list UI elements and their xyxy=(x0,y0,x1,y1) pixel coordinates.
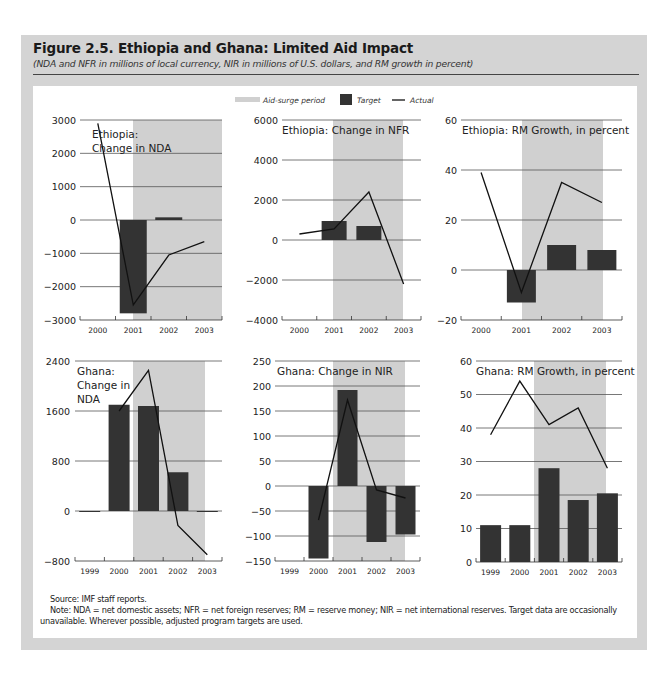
y-tick-label: −150 xyxy=(245,556,271,567)
target-bar xyxy=(356,226,381,240)
y-tick-label: 10 xyxy=(460,523,472,534)
x-tick-label: 1999 xyxy=(280,567,299,576)
chart-ghana-rm-growth: 605040302010019992000200120022003Ghana: … xyxy=(460,356,635,578)
target-bar xyxy=(197,511,218,512)
abbreviations-note: Note: NDA = net domestic assets; NFR = n… xyxy=(40,605,630,627)
y-tick-label: −50 xyxy=(251,506,271,517)
y-tick-label: 0 xyxy=(451,265,457,276)
y-tick-label: 50 xyxy=(259,456,271,467)
y-tick-label: 150 xyxy=(253,406,271,417)
x-tick-label: 2003 xyxy=(394,326,413,335)
y-tick-label: −1000 xyxy=(44,248,76,259)
x-tick-label: 2003 xyxy=(396,567,415,576)
target-bar xyxy=(568,500,589,562)
x-tick-label: 2001 xyxy=(325,326,344,335)
y-tick-label: 0 xyxy=(466,557,472,568)
y-tick-label: 0 xyxy=(70,215,76,226)
y-tick-label: 4000 xyxy=(254,155,278,166)
target-bar xyxy=(120,220,147,313)
chart-ethiopia-nfr: 6000400020000−2000−40002000200120022003E… xyxy=(246,115,421,336)
target-bar xyxy=(547,245,576,270)
target-bar xyxy=(138,406,159,511)
x-tick-label: 2003 xyxy=(592,326,611,335)
x-tick-label: 1999 xyxy=(80,567,99,576)
x-tick-label: 2003 xyxy=(195,326,214,335)
chart-ghana-nda: 240016008000−80019992000200120022003Ghan… xyxy=(44,356,222,577)
y-tick-label: 20 xyxy=(460,490,472,501)
y-tick-label: 0 xyxy=(265,481,271,492)
y-tick-label: 100 xyxy=(253,431,271,442)
aid-surge-band xyxy=(333,120,403,320)
chart-title: Ghana: Change in NIR xyxy=(277,365,393,377)
x-tick-label: 2001 xyxy=(512,326,531,335)
figure-notes: Source: IMF staff reports. Note: NDA = n… xyxy=(40,594,630,627)
chart-title: Change in xyxy=(77,379,130,391)
x-tick-label: 2001 xyxy=(124,326,143,335)
target-bar xyxy=(507,270,536,303)
x-tick-label: 2002 xyxy=(359,326,378,335)
x-tick-label: 2000 xyxy=(290,326,309,335)
target-bar xyxy=(597,493,618,562)
x-tick-label: 2002 xyxy=(168,567,187,576)
x-tick-label: 2001 xyxy=(539,568,558,577)
target-bar xyxy=(155,217,182,220)
x-tick-label: 2000 xyxy=(510,568,529,577)
y-tick-label: −3000 xyxy=(44,315,76,326)
legend-target-label: Target xyxy=(357,96,382,105)
y-tick-label: 30 xyxy=(460,456,472,467)
x-tick-label: 2003 xyxy=(198,567,217,576)
y-tick-label: −2000 xyxy=(246,275,278,286)
y-tick-label: 2400 xyxy=(46,356,70,367)
x-tick-label: 2000 xyxy=(88,326,107,335)
y-tick-label: 20 xyxy=(445,215,457,226)
x-tick-label: 2002 xyxy=(552,326,571,335)
y-tick-label: 0 xyxy=(272,235,278,246)
chart-ethiopia-nda: 3000200010000−1000−2000−3000200020012002… xyxy=(44,115,222,336)
legend-actual-label: Actual xyxy=(409,96,435,105)
y-tick-label: 1600 xyxy=(46,406,70,417)
target-bar xyxy=(587,250,616,270)
y-tick-label: 800 xyxy=(52,456,70,467)
x-tick-label: 2003 xyxy=(598,568,617,577)
y-tick-label: 40 xyxy=(460,423,472,434)
chart-title: Ghana: xyxy=(77,365,115,377)
y-tick-label: 50 xyxy=(460,389,472,400)
target-bar xyxy=(309,486,329,559)
x-tick-label: 2000 xyxy=(472,326,491,335)
y-tick-label: −2000 xyxy=(44,281,76,292)
y-tick-label: 60 xyxy=(445,115,457,126)
y-tick-label: 2000 xyxy=(254,195,278,206)
chart-title: Change in NDA xyxy=(92,142,172,154)
y-tick-label: 250 xyxy=(253,356,271,367)
chart-title: Ethiopia: RM Growth, in percent xyxy=(462,124,629,136)
target-bar xyxy=(109,405,130,511)
target-bar xyxy=(480,525,501,562)
x-tick-label: 2001 xyxy=(338,567,357,576)
legend-aid-surge-swatch xyxy=(235,97,260,102)
target-bar xyxy=(509,525,530,562)
x-tick-label: 2000 xyxy=(110,567,129,576)
chart-title: Ghana: RM Growth, in percent xyxy=(476,365,635,377)
chart-ethiopia-rm-growth: 6040200−202000200120022003Ethiopia: RM G… xyxy=(437,115,629,336)
x-tick-label: 2002 xyxy=(159,326,178,335)
y-tick-label: −4000 xyxy=(246,315,278,326)
source-note: Source: IMF staff reports. xyxy=(40,594,630,605)
x-tick-label: 2001 xyxy=(139,567,158,576)
chart-title: Ethiopia: Change in NFR xyxy=(282,124,409,136)
x-tick-label: 2002 xyxy=(367,567,386,576)
y-tick-label: 2000 xyxy=(52,148,76,159)
target-bar xyxy=(167,472,188,511)
legend: Aid-surge period Target Actual xyxy=(235,94,435,105)
y-tick-label: 40 xyxy=(445,165,457,176)
legend-aid-surge-label: Aid-surge period xyxy=(262,96,325,105)
chart-title: NDA xyxy=(77,393,101,405)
target-bar xyxy=(396,486,416,535)
y-tick-label: −800 xyxy=(44,556,70,567)
y-tick-label: 3000 xyxy=(52,115,76,126)
charts-canvas: Aid-surge period Target Actual 300020001… xyxy=(0,0,671,674)
x-tick-label: 2000 xyxy=(309,567,328,576)
chart-ghana-nir: 250200150100500−50−100−15019992000200120… xyxy=(245,356,420,577)
target-bar xyxy=(367,486,387,542)
y-tick-label: 200 xyxy=(253,381,271,392)
target-bar xyxy=(338,390,358,486)
